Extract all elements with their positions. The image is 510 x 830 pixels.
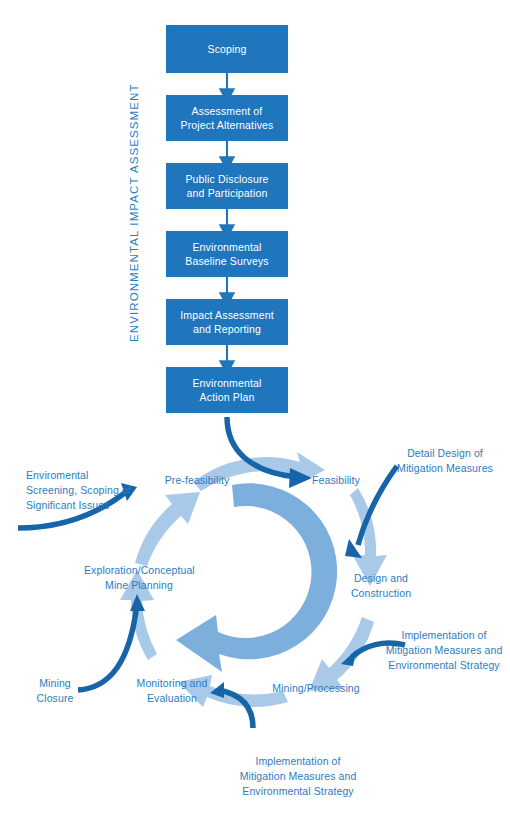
inner-spiral-arrow bbox=[176, 483, 337, 672]
cycle-label-mining-processing[interactable]: Mining/Processing bbox=[262, 681, 370, 696]
input-label-screening[interactable]: Enviromental Screening, Scoping of Signi… bbox=[26, 468, 146, 514]
cycle-label-mining-closure[interactable]: Mining Closure bbox=[24, 676, 86, 706]
diagram-canvas: ENVIRONMENTAL IMPACT ASSESSMENT Scoping … bbox=[0, 0, 510, 830]
input-label-implementation-bottom[interactable]: Implementation of Mitigation Measures an… bbox=[228, 754, 368, 800]
cycle-label-exploration-planning[interactable]: Exploration/Conceptual Mine Planning bbox=[84, 563, 194, 593]
cycle-label-feasibility[interactable]: Feasibility bbox=[300, 473, 372, 488]
cycle-label-pre-feasibility[interactable]: Pre-feasibility bbox=[155, 473, 239, 488]
cycle-label-design-construction[interactable]: Design and Construction bbox=[338, 571, 424, 601]
input-label-detail-design[interactable]: Detail Design of Mitigation Measures bbox=[386, 446, 504, 476]
cycle-label-monitoring-evaluation[interactable]: Monitoring and Evaluation bbox=[126, 676, 218, 706]
input-label-implementation-right[interactable]: Implementation of Mitigation Measures an… bbox=[382, 628, 506, 674]
ring-arrow-design-to-mining bbox=[309, 617, 374, 691]
